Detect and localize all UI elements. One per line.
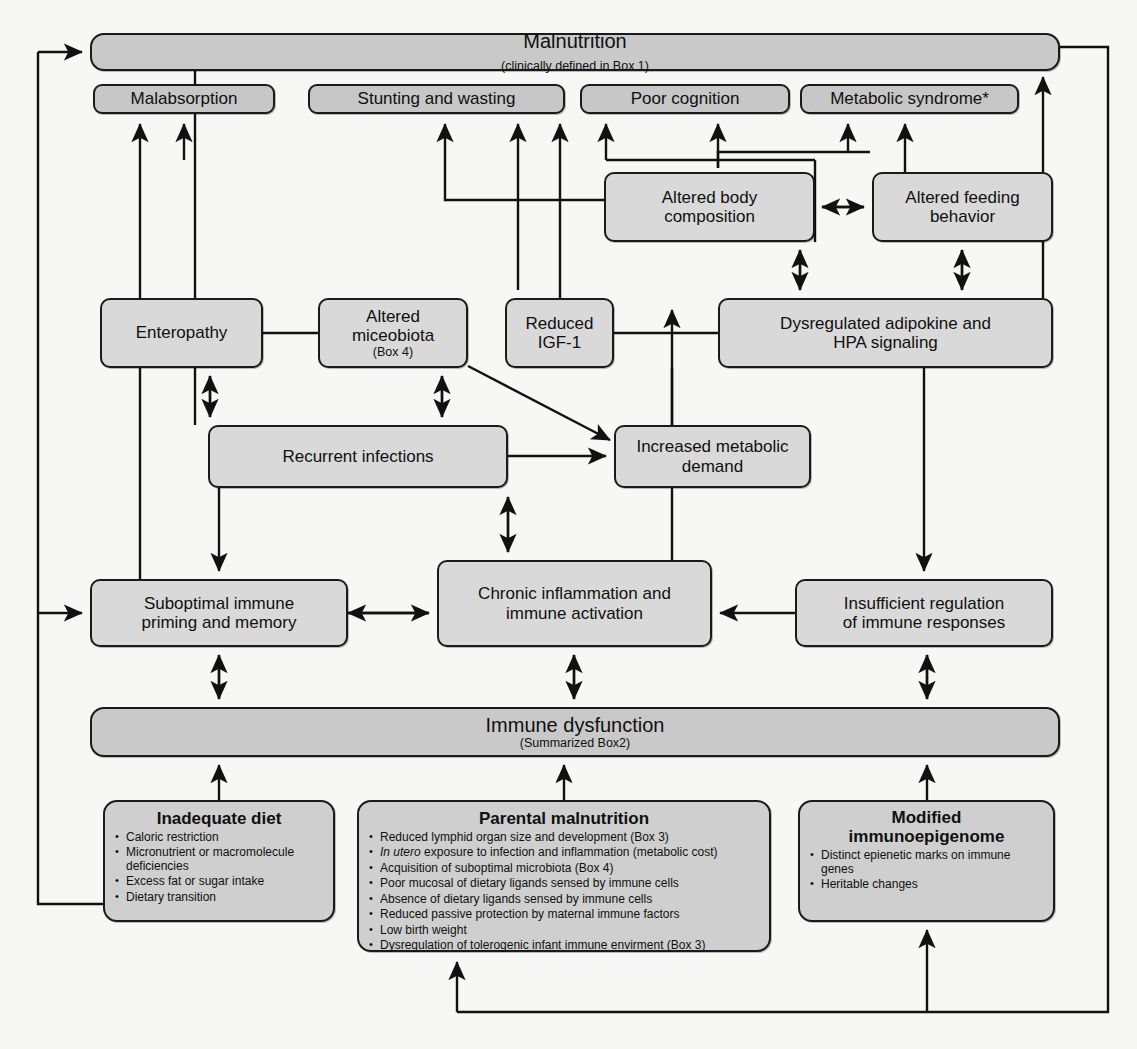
chronic-line2: immune activation <box>506 604 643 623</box>
node-increased-metabolic-demand[interactable]: Increased metabolic demand <box>614 425 811 488</box>
list-item: Reduced passive protection by maternal i… <box>367 908 761 921</box>
parental-malnutrition-title: Parental malnutrition <box>367 809 761 828</box>
abc-line2: composition <box>664 207 755 226</box>
immunoepigenome-bullets: Distinct epienetic marks on immune genes… <box>808 849 1045 893</box>
stunting-label: Stunting and wasting <box>358 89 516 108</box>
node-parental-malnutrition[interactable]: Parental malnutrition Reduced lymphid or… <box>357 800 771 952</box>
diagram-canvas: Malnutrition(clinically defined in Box 1… <box>0 0 1137 1049</box>
metabolic-syndrome-label: Metabolic syndrome* <box>830 89 989 108</box>
insufficient-line1: Insufficient regulation <box>844 594 1004 613</box>
list-item: In utero exposure to infection and infla… <box>367 846 761 859</box>
node-altered-feeding-behavior[interactable]: Altered feeding behavior <box>872 172 1053 242</box>
afb-line1: Altered feeding <box>905 188 1019 207</box>
list-item: Acquisition of suboptimal microbiota (Bo… <box>367 862 761 875</box>
node-altered-body-composition[interactable]: Altered body composition <box>604 172 815 242</box>
node-poor-cognition[interactable]: Poor cognition <box>580 84 790 114</box>
node-malabsorption[interactable]: Malabsorption <box>93 84 275 114</box>
immune-dysfunction-label: Immune dysfunction <box>486 714 665 736</box>
list-item: Distinct epienetic marks on immune genes <box>808 849 1045 876</box>
node-malnutrition[interactable]: Malnutrition(clinically defined in Box 1… <box>90 33 1060 71</box>
chronic-line1: Chronic inflammation and <box>478 584 671 603</box>
suboptimal-line1: Suboptimal immune <box>144 594 294 613</box>
node-modified-immunoepigenome[interactable]: Modified immunoepigenome Distinct epiene… <box>798 800 1055 922</box>
node-suboptimal-immune-priming[interactable]: Suboptimal immune priming and memory <box>90 579 348 647</box>
inadequate-diet-title: Inadequate diet <box>113 809 325 828</box>
node-recurrent-infections[interactable]: Recurrent infections <box>208 425 508 488</box>
igf1-line2: IGF-1 <box>538 333 581 352</box>
node-enteropathy[interactable]: Enteropathy <box>100 298 263 368</box>
node-insufficient-regulation[interactable]: Insufficient regulation of immune respon… <box>795 579 1053 647</box>
node-reduced-igf1[interactable]: Reduced IGF-1 <box>505 298 614 368</box>
suboptimal-line2: priming and memory <box>142 613 297 632</box>
malabsorption-label: Malabsorption <box>131 89 238 108</box>
node-immune-dysfunction[interactable]: Immune dysfunction (Summarized Box2) <box>90 707 1060 757</box>
malnutrition-note: (clinically defined in Box 1) <box>501 59 649 73</box>
immune-dysfunction-note: (Summarized Box2) <box>520 736 630 750</box>
node-chronic-inflammation[interactable]: Chronic inflammation and immune activati… <box>437 560 712 647</box>
node-altered-microbiota[interactable]: Altered miceobiota (Box 4) <box>318 298 468 368</box>
list-item: Dysregulation of tolerogenic infant immu… <box>367 939 761 952</box>
node-metabolic-syndrome[interactable]: Metabolic syndrome* <box>800 84 1019 114</box>
list-item: Heritable changes <box>808 878 1045 891</box>
dysregulated-line2: HPA signaling <box>833 333 938 352</box>
microbiota-note: (Box 4) <box>373 345 413 359</box>
dysregulated-line1: Dysregulated adipokine and <box>780 314 991 333</box>
list-item: Poor mucosal of dietary ligands sensed b… <box>367 877 761 890</box>
list-item: Micronutrient or macromolecule deficienc… <box>113 846 325 873</box>
enteropathy-label: Enteropathy <box>136 323 228 342</box>
list-item: Dietary transition <box>113 891 325 904</box>
malnutrition-label: Malnutrition <box>501 30 649 52</box>
node-dysregulated-adipokine-hpa[interactable]: Dysregulated adipokine and HPA signaling <box>718 298 1053 368</box>
list-item: Reduced lymphid organ size and developme… <box>367 831 761 844</box>
immunoepigenome-title-line2: immunoepigenome <box>849 827 1005 846</box>
recurrent-infections-label: Recurrent infections <box>282 447 433 466</box>
afb-line2: behavior <box>930 207 995 226</box>
parental-malnutrition-bullets: Reduced lymphid organ size and developme… <box>367 831 761 955</box>
node-stunting-and-wasting[interactable]: Stunting and wasting <box>308 84 565 114</box>
metabolic-demand-line2: demand <box>682 457 743 476</box>
list-item: Excess fat or sugar intake <box>113 875 325 888</box>
abc-line1: Altered body <box>662 188 757 207</box>
cognition-label: Poor cognition <box>631 89 740 108</box>
list-item: Low birth weight <box>367 924 761 937</box>
node-inadequate-diet[interactable]: Inadequate diet Caloric restrictionMicro… <box>103 800 335 922</box>
list-item: Caloric restriction <box>113 831 325 844</box>
microbiota-line1: Altered <box>366 307 420 326</box>
immunoepigenome-title-line1: Modified <box>892 808 962 827</box>
inadequate-diet-bullets: Caloric restrictionMicronutrient or macr… <box>113 831 325 906</box>
insufficient-line2: of immune responses <box>843 613 1006 632</box>
metabolic-demand-line1: Increased metabolic <box>636 437 788 456</box>
igf1-line1: Reduced <box>525 314 593 333</box>
list-item: Absence of dietary ligands sensed by imm… <box>367 893 761 906</box>
microbiota-line2: miceobiota <box>352 326 434 345</box>
